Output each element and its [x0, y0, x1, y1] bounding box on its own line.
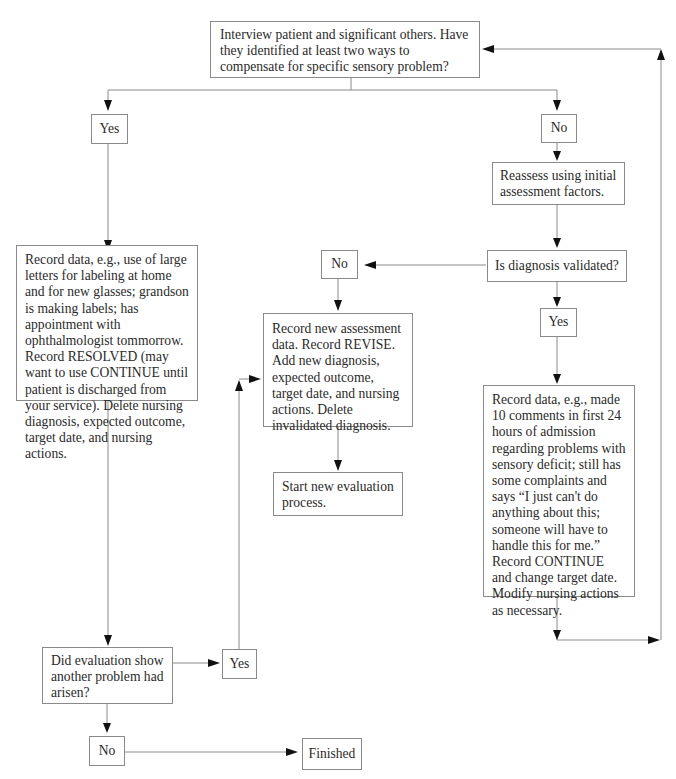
record-resolved-box: Record data, e.g., use of large letters … [16, 245, 198, 401]
another-problem-question-box: Did evaluation show another problem had … [42, 647, 173, 704]
start-interview-box: Interview patient and significant others… [210, 21, 480, 78]
start-new-evaluation-text: Start new evaluation process. [282, 479, 394, 511]
validated-question-box: Is diagnosis validated? [487, 250, 627, 282]
reassess-box: Reassess using initial assessment factor… [492, 162, 625, 205]
validated-yes-label: Yes [549, 314, 569, 330]
another-problem-question-text: Did evaluation show another problem had … [51, 653, 164, 702]
record-revise-box: Record new assessment data. Record REVIS… [263, 313, 413, 427]
record-continue-text: Record data, e.g., made 10 comments in f… [492, 392, 626, 619]
record-continue-box: Record data, e.g., made 10 comments in f… [483, 385, 635, 597]
start-interview-text: Interview patient and significant others… [220, 27, 470, 76]
record-resolved-text: Record data, e.g., use of large letters … [25, 252, 189, 463]
no-box: No [541, 114, 577, 143]
no-label: No [551, 120, 568, 136]
validated-yes-box: Yes [540, 308, 577, 337]
question-no-box: No [89, 736, 125, 766]
yes-label: Yes [100, 121, 120, 137]
validated-question-text: Is diagnosis validated? [495, 258, 619, 274]
validated-no-label: No [331, 256, 348, 272]
reassess-text: Reassess using initial assessment factor… [500, 168, 617, 200]
finished-box: Finished [302, 738, 362, 770]
finished-label: Finished [309, 746, 356, 762]
yes-box: Yes [91, 114, 128, 144]
question-yes-label: Yes [230, 656, 250, 672]
question-no-label: No [99, 743, 116, 759]
question-yes-box: Yes [222, 649, 257, 679]
record-revise-text: Record new assessment data. Record REVIS… [272, 321, 404, 434]
validated-no-box: No [321, 250, 358, 279]
start-new-evaluation-box: Start new evaluation process. [273, 472, 403, 516]
